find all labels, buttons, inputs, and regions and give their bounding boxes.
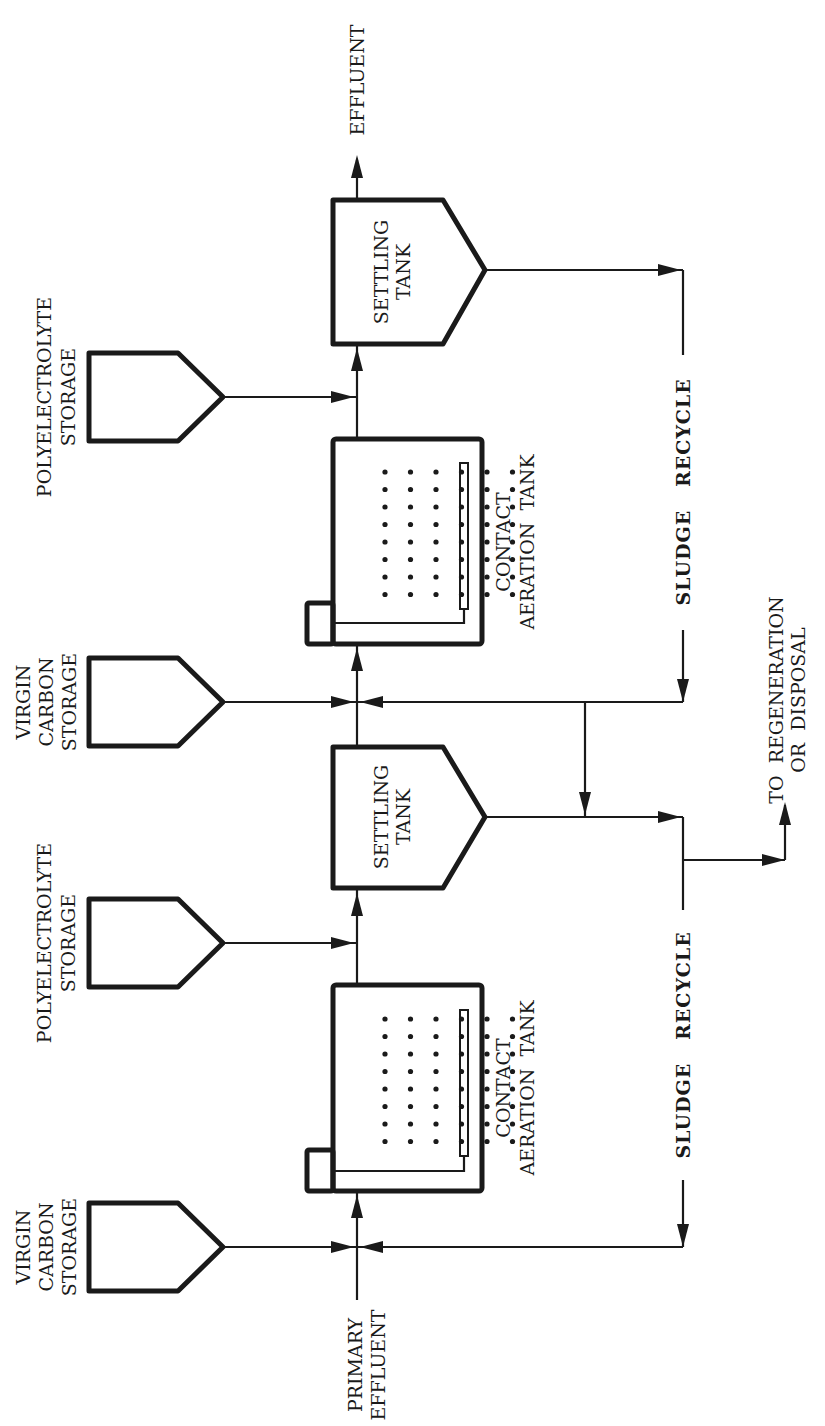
polyelectrolyte-storage-1-label-line2: STORAGE xyxy=(57,894,79,992)
settling-tank-1-label: SETTLING xyxy=(370,765,392,870)
virgin-carbon-storage-1-label-line3: STORAGE xyxy=(58,1198,80,1296)
virgin-carbon-storage-2-label-line3: STORAGE xyxy=(58,653,80,751)
flow-arrow-icon xyxy=(351,648,363,671)
effluent-outlet-label: EFFLUENT xyxy=(346,24,368,135)
virgin-carbon-storage-2-label-line2: CARBON xyxy=(35,657,57,746)
virgin-carbon-storage-1 xyxy=(89,1203,357,1291)
contact-aeration-tank-2-label-line2: AERATION TANK xyxy=(516,454,538,631)
flow-arrow-icon xyxy=(351,1195,363,1218)
primary-effluent-label-line2: EFFLUENT xyxy=(367,1309,389,1420)
virgin-carbon-storage-2-label: VIRGIN xyxy=(12,665,34,741)
polyelectrolyte-storage-2 xyxy=(89,353,357,441)
polyelectrolyte-storage-1-label: POLYELECTROLYTE xyxy=(33,843,55,1043)
regeneration-disposal-label: TO REGENERATION xyxy=(765,596,787,803)
sludge-recycle-2-label: SLUDGE RECYCLE xyxy=(672,378,694,605)
virgin-carbon-storage-1-label: VIRGIN xyxy=(12,1210,34,1286)
primary-effluent-label: PRIMARY xyxy=(344,1318,366,1412)
contact-aeration-tank-2 xyxy=(307,439,482,644)
polyelectrolyte-storage-2-label-line2: STORAGE xyxy=(57,348,79,446)
effluent-arrow-icon xyxy=(351,155,363,178)
contact-aeration-tank-1-label-line2: AERATION TANK xyxy=(516,1000,538,1177)
settling-tank-2-label: SETTLING xyxy=(370,220,392,325)
contact-aeration-tank-1 xyxy=(307,985,482,1191)
flow-arrow-icon xyxy=(351,348,363,371)
settling-tank-1-label-line2: TANK xyxy=(392,788,414,845)
waste-line xyxy=(683,802,791,866)
polyelectrolyte-storage-1 xyxy=(89,899,357,987)
flow-arrow-icon xyxy=(351,893,363,916)
polyelectrolyte-storage-2-label: POLYELECTROLYTE xyxy=(33,297,55,497)
virgin-carbon-storage-1-label-line2: CARBON xyxy=(35,1202,57,1291)
sludge-recycle-1-label: SLUDGE RECYCLE xyxy=(672,931,694,1158)
regeneration-disposal-label-line2: OR DISPOSAL xyxy=(787,627,809,773)
virgin-carbon-storage-2 xyxy=(89,658,357,746)
process-flow-diagram: VIRGIN CARBON STORAGE POLYELECTROLYTE ST… xyxy=(0,0,825,1426)
settling-tank-2-label-line2: TANK xyxy=(392,243,414,300)
